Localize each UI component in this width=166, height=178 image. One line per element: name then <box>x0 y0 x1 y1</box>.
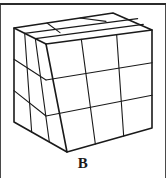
cube-diagram <box>0 0 166 178</box>
figure-label: B <box>0 155 166 172</box>
figure-container: B <box>0 0 166 178</box>
